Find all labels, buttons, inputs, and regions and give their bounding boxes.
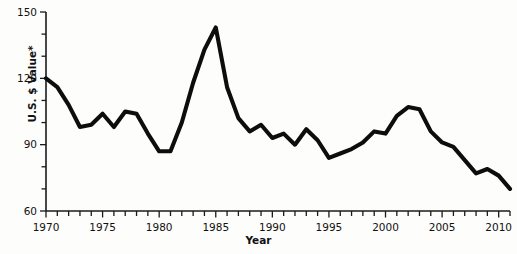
- data-series-line: [46, 27, 510, 188]
- x-tick-label: 1985: [202, 221, 229, 233]
- x-tick-labels: 197019751980198519901995200020052010: [33, 221, 512, 233]
- x-tick-label: 2000: [372, 221, 399, 233]
- x-tick-label: 2010: [485, 221, 512, 233]
- x-tick-label: 1995: [316, 221, 343, 233]
- y-axis-title: U.S. $ Value*: [26, 24, 38, 144]
- x-axis: [46, 211, 510, 218]
- x-tick-label: 1975: [89, 221, 116, 233]
- line-chart-canvas: 6090120150 19701975198019851990199520002…: [0, 0, 517, 254]
- y-tick-label: 60: [24, 205, 37, 217]
- y-axis: [40, 12, 46, 211]
- x-tick-label: 1990: [259, 221, 286, 233]
- x-tick-label: 2005: [429, 221, 456, 233]
- data-series-group: [46, 27, 510, 188]
- y-tick-label: 150: [17, 6, 37, 18]
- x-tick-label: 1980: [146, 221, 173, 233]
- chart-figure: 6090120150 19701975198019851990199520002…: [0, 0, 517, 254]
- x-tick-label: 1970: [33, 221, 60, 233]
- x-axis-title: Year: [0, 234, 517, 246]
